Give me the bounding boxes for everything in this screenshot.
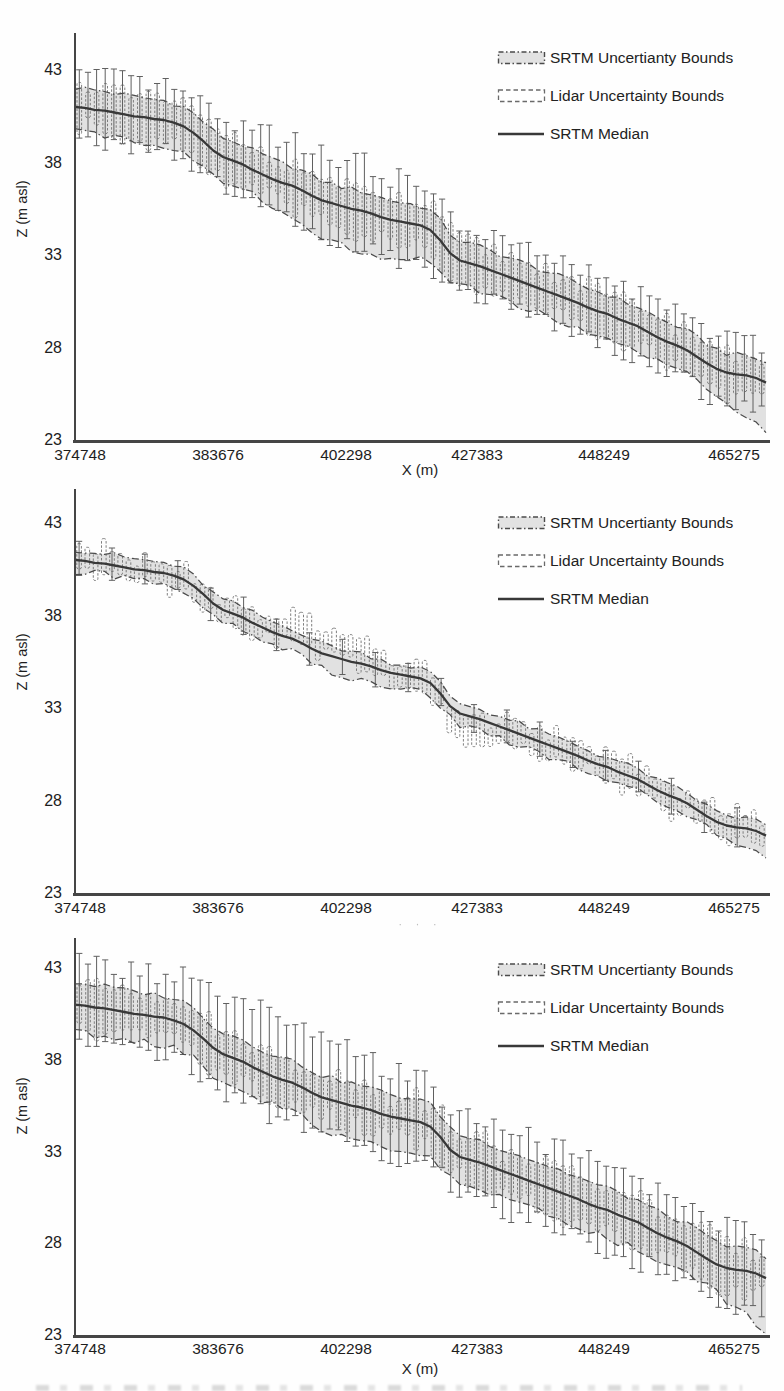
legend-label: SRTM Median [550, 125, 649, 143]
lidar-uncertainty-boxes [77, 539, 764, 847]
legend-label: SRTM Median [550, 1037, 649, 1055]
legend-label: SRTM Median [550, 590, 649, 608]
legend-label: Lidar Uncertainty Bounds [550, 999, 724, 1017]
median-line-legend-swatch [497, 591, 547, 607]
srtm-uncertainty-band-fill [75, 552, 766, 858]
legend-item: Lidar Uncertainty Bounds [497, 88, 724, 104]
legend-label: Lidar Uncertainty Bounds [550, 552, 724, 570]
srtm-uncertainty-band-fill [75, 984, 766, 1334]
legend-item: SRTM Median [497, 591, 649, 607]
srtm-lidar-profile-chart-middle: Z (m asl)4338332823374748383676402298427… [0, 477, 784, 930]
legend-item: Lidar Uncertainty Bounds [497, 1000, 724, 1016]
legend-label: SRTM Uncertianty Bounds [550, 514, 733, 532]
srtm-band-legend-swatch [497, 50, 547, 66]
plot-area [0, 0, 784, 477]
srtm-band-legend-swatch [497, 515, 547, 531]
legend-item: SRTM Uncertianty Bounds [497, 50, 733, 66]
median-line-legend-swatch [497, 1038, 547, 1054]
lidar-box-legend-swatch [497, 88, 547, 104]
srtm-band-lower-edge [75, 570, 766, 858]
srtm-band-lower-edge [75, 1030, 766, 1335]
legend-label: SRTM Uncertianty Bounds [550, 961, 733, 979]
lidar-box-legend-swatch [497, 1000, 547, 1016]
cropped-caption-remnant [36, 1385, 742, 1391]
plot-area [0, 477, 784, 930]
scanned-figure-page: Z (m asl)4338332823374748383676402298427… [0, 0, 784, 1391]
lidar-box-legend-swatch [497, 553, 547, 569]
legend-item: SRTM Median [497, 126, 649, 142]
median-line-legend-swatch [497, 126, 547, 142]
legend-item: SRTM Median [497, 1038, 649, 1054]
legend-label: SRTM Uncertianty Bounds [550, 49, 733, 67]
srtm-lidar-profile-chart-top: Z (m asl)4338332823374748383676402298427… [0, 0, 784, 477]
legend-item: Lidar Uncertainty Bounds [497, 553, 724, 569]
srtm-uncertainty-band-fill [75, 87, 766, 432]
srtm-band-legend-swatch [497, 962, 547, 978]
legend-item: SRTM Uncertianty Bounds [497, 962, 733, 978]
srtm-band-lower-edge [75, 129, 766, 433]
legend-label: Lidar Uncertainty Bounds [550, 87, 724, 105]
legend-item: SRTM Uncertianty Bounds [497, 515, 733, 531]
srtm-lidar-profile-chart-bottom: Z (m asl)4338332823374748383676402298427… [0, 930, 784, 1391]
